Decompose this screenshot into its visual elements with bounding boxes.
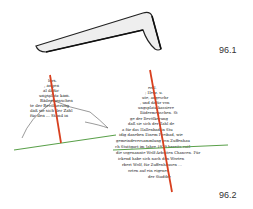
bent-bar-shape <box>36 12 161 52</box>
figure-canvas: lers. , angen al dafür ungsplatz kam. Bä… <box>0 0 253 209</box>
right-text-line: rbert Wolf, für Zuffenhausen ... <box>122 162 182 167</box>
right-text-line: orten auf ein eigenes <box>128 168 169 173</box>
left-text-line: für den ... Stand in <box>30 113 69 118</box>
right-text-line: gemeindeversammlung von Zuffenhau <box>116 138 190 143</box>
right-text-line: der Stadtbe <box>148 174 171 179</box>
right-text-line: daß sie sich der Zahl de <box>128 121 175 126</box>
green-base-line <box>14 135 116 150</box>
figure-label-96-1: 96.1 <box>219 45 237 55</box>
right-text-line: idig daneben Einem Freibad, wie <box>119 132 184 137</box>
right-text-line: die sogenannte Wolf-Arbeiten Chancen. Fü… <box>116 150 201 155</box>
right-text-line: Bädermenschen. St <box>140 110 178 115</box>
right-text-triangle: erkl. ; Herz. u. ute, angeschr , und daf… <box>113 70 228 192</box>
left-text-triangle: lers. , angen al dafür ungsplatz kam. Bä… <box>14 75 116 150</box>
right-text-line: ickend habe sich nach den Worten <box>118 156 185 161</box>
figure-label-96-2: 96.2 <box>219 190 237 200</box>
